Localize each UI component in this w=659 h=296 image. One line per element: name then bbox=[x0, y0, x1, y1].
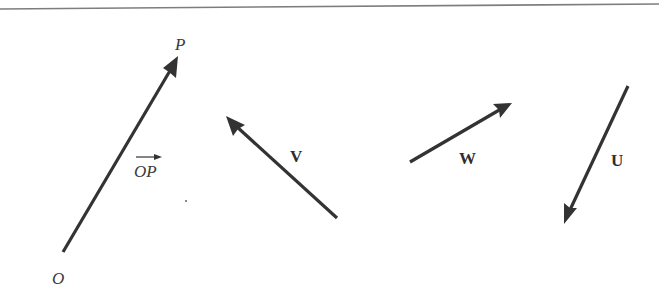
vector-op-label-text: OP bbox=[134, 162, 157, 181]
point-label-o: O bbox=[52, 269, 64, 288]
vector-op-arrowhead bbox=[163, 56, 178, 78]
vector-op-shaft bbox=[63, 69, 171, 252]
vector-w-shaft bbox=[410, 109, 501, 162]
vector-w-label: W bbox=[459, 149, 476, 168]
vector-v bbox=[226, 116, 337, 218]
vector-diagram: P O OP V W U bbox=[0, 0, 659, 296]
overarrow-head bbox=[154, 154, 162, 160]
vector-v-shaft bbox=[236, 126, 337, 218]
vector-u-label: U bbox=[611, 151, 623, 170]
speck bbox=[185, 200, 187, 202]
vector-op bbox=[63, 56, 178, 252]
top-rule bbox=[0, 4, 659, 9]
point-label-p: P bbox=[174, 35, 185, 54]
vector-u-shaft bbox=[569, 86, 628, 212]
vector-op-label: OP bbox=[134, 154, 162, 181]
vector-v-label: V bbox=[290, 147, 303, 166]
